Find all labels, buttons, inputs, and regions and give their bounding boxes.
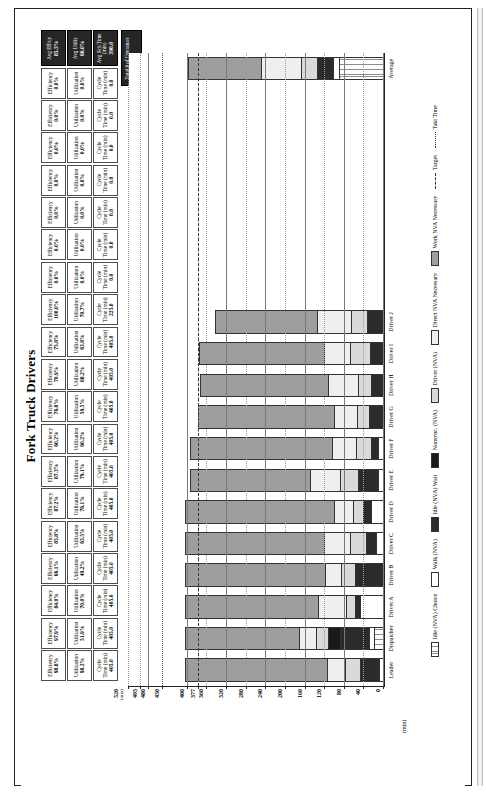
metrics-cell-value: 0.0% (79, 271, 85, 284)
metrics-cell-value: 0.0% (53, 174, 59, 187)
y-tick-mark (265, 686, 266, 689)
bar-segment-driver (357, 438, 372, 459)
bar-slot[interactable]: Driver C (129, 528, 384, 560)
bar-slot[interactable] (129, 85, 384, 117)
metrics-cell-value: 405.0 (108, 433, 114, 446)
metrics-cell-value: 225.0 (108, 303, 114, 316)
bar-segment-driver (352, 311, 369, 332)
bar-slot[interactable] (129, 116, 384, 148)
legend-swatch-nonsync (431, 453, 440, 468)
metrics-cell-label: CycleTime (min) (96, 71, 108, 96)
y-tick-label: 320 (218, 689, 224, 698)
legend-item: Idle (NVA) Choice (431, 594, 440, 657)
bar-slot[interactable] (129, 148, 384, 180)
bar-slot[interactable]: Dispatcher (129, 623, 384, 655)
legend-label: Idle (NVA) Wait (432, 475, 438, 515)
y-tick-mark (363, 686, 364, 689)
bar-slot[interactable]: Average (129, 53, 384, 85)
bar-slot[interactable]: Driver A (129, 591, 384, 623)
stacked-bar[interactable] (200, 374, 384, 397)
bar-slot[interactable] (129, 243, 384, 275)
legend-label: Idle (NVA) Choice (432, 594, 438, 640)
metrics-cell: Efficiency0.0% (41, 165, 66, 196)
metrics-cell-value: 405.0 (108, 562, 114, 575)
stacked-bar[interactable] (190, 437, 384, 460)
legend-swatch-idlechoice (431, 642, 440, 657)
metrics-cell-label: CycleTime (min) (96, 427, 108, 452)
bar-slot[interactable] (129, 180, 384, 212)
metrics-cell-value: 51.9% (79, 626, 85, 641)
y-tick-mark (344, 686, 345, 689)
x-axis-label: Dispatcher (388, 626, 394, 652)
bar-segment-directnva (335, 406, 358, 427)
stacked-bar[interactable] (215, 310, 384, 333)
bar-slot[interactable]: Driver G (129, 401, 384, 433)
metrics-row: Utilization98.2%Utilization51.9%Utilizat… (67, 29, 92, 733)
metrics-cell-label: CycleTime (min) (96, 556, 108, 581)
bar-slot[interactable]: Driver I (129, 338, 384, 370)
x-axis-label: Leader (388, 662, 394, 679)
gridline (187, 53, 188, 686)
metrics-cell: CycleTime (min)405.0 (93, 585, 118, 616)
metrics-cell: Efficiency0.0% (41, 68, 66, 99)
legend-swatch-idlewait (431, 517, 440, 532)
metrics-cell-value: 66.1% (53, 561, 59, 576)
metrics-summary-value: 66.0% (79, 41, 85, 56)
metrics-cell-value: 0.0 (108, 144, 114, 151)
metrics-cell-value: 84.0% (53, 593, 59, 608)
legend-item: Driver (NVA) (431, 352, 440, 403)
metrics-cell: CycleTime (min)405.0 (93, 359, 118, 390)
metrics-summary-cell: Avg Utiliz66.0% (67, 30, 92, 66)
metrics-cell-value: 98.8% (53, 658, 59, 673)
metrics-cell-value: 100.0% (53, 301, 59, 319)
metrics-summary-value: 85.5% (53, 41, 59, 56)
bar-slot[interactable]: Driver F (129, 433, 384, 465)
metrics-cell-label: CycleTime (min) (96, 265, 108, 290)
metrics-cell: CycleTime (min)405.0 (93, 488, 118, 519)
legend-line-takt-time (435, 132, 436, 148)
metrics-cell: Utilization70.0% (67, 585, 92, 616)
metrics-cell: Utilization70.7% (67, 294, 92, 325)
metrics-cell: CycleTime (min)0.0 (93, 100, 118, 131)
metrics-cell: Efficiency66.1% (41, 553, 66, 584)
metrics-cell: Utilization98.2% (67, 650, 92, 681)
bar-segment-idlewait (356, 565, 383, 586)
metrics-cell: Utilization0.0% (67, 262, 92, 293)
bar-slot[interactable]: Driver E (129, 464, 384, 496)
bar-slot[interactable]: Driver H (129, 369, 384, 401)
bar-slot[interactable] (129, 211, 384, 243)
metrics-cell: CycleTime (min)0.0 (93, 165, 118, 196)
metrics-cell: Efficiency75.8% (41, 327, 66, 358)
legend-item: Idle (NVA) Wait (431, 475, 440, 532)
metrics-cell: CycleTime (min)0.0 (93, 229, 118, 260)
bar-slot[interactable] (129, 274, 384, 306)
gridline (363, 53, 364, 686)
metrics-cell: CycleTime (min)0.0 (93, 262, 118, 293)
metrics-cell-value: 60.2% (53, 431, 59, 446)
bar-segment-directnva (319, 596, 347, 617)
bar-slot[interactable]: Driver J (129, 306, 384, 338)
bar-slot[interactable]: Leader (129, 654, 384, 686)
metrics-row-spacer (67, 681, 92, 733)
metrics-summary-label: Avg Sch Time (min) (97, 32, 109, 64)
bar-slot[interactable]: Driver D (129, 496, 384, 528)
bar-segment-worknva (186, 628, 299, 649)
metrics-cell: CycleTime (min)405.0 (93, 521, 118, 552)
x-axis-label: Driver A (388, 596, 394, 617)
gridline (383, 53, 384, 686)
bar-segment-worknva (200, 343, 325, 364)
y-tick-label: 280 (238, 689, 244, 698)
stacked-bar[interactable] (190, 469, 384, 492)
x-axis-label: Driver B (388, 565, 394, 586)
bar-segment-driver (351, 533, 367, 554)
bar-slot[interactable]: Driver B (129, 559, 384, 591)
bar-segment-idlewait (371, 343, 383, 364)
gridline (324, 53, 325, 686)
metrics-cell-value: 87.3% (53, 464, 59, 479)
metrics-cell-label: CycleTime (min) (96, 136, 108, 161)
metrics-cell-value: 0.0 (108, 112, 114, 119)
metrics-cell-label: CycleTime (min) (96, 589, 108, 614)
metrics-cell-value: 75.8% (53, 334, 59, 349)
metrics-cell-value: 0.0% (53, 77, 59, 90)
gridline (285, 53, 286, 686)
